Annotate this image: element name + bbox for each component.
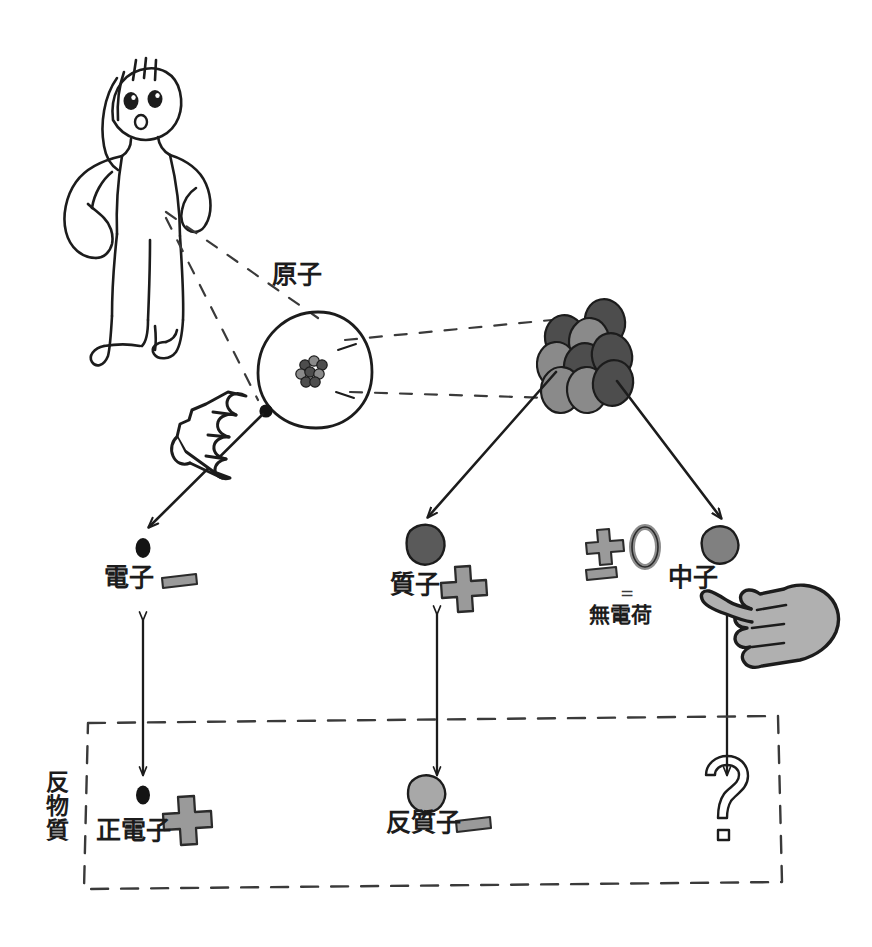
- pointing-hand-outline-icon[interactable]: [172, 392, 246, 479]
- arrow-to-neutron: [617, 381, 721, 518]
- label-atom: 原子: [272, 262, 322, 287]
- label-neutron: 中子: [668, 565, 718, 590]
- charge-note-minus-sign: [586, 567, 617, 580]
- matter-antimatter-arrows: [143, 614, 727, 775]
- particle-neutron: [702, 526, 739, 563]
- charge-note-zero: [632, 527, 658, 567]
- label-antiproton: 反質子: [386, 810, 461, 835]
- charge-note-plus-sign: [586, 529, 624, 565]
- pointing-hand-filled-icon[interactable]: [701, 585, 838, 667]
- particle-positron: [136, 786, 150, 805]
- label-positron: 正電子: [96, 818, 171, 843]
- atom-circle-icon: [258, 312, 372, 428]
- diagram-canvas: [0, 0, 872, 947]
- atom-antimatter-diagram: 原子 電子 質子 中子 = 無電荷 反物質 正電子 反質子: [0, 0, 872, 947]
- particle-electron: [136, 538, 151, 558]
- person-figure-icon: [64, 58, 210, 365]
- charge-note-equals: =: [620, 583, 634, 603]
- magnify-dashes: [345, 320, 552, 398]
- arrow-to-proton: [428, 372, 556, 517]
- label-electron: 電子: [104, 565, 154, 590]
- particle-proton: [407, 525, 445, 565]
- minus-sign-antiproton: [456, 817, 491, 832]
- label-antimatter: 反物質: [44, 770, 68, 842]
- label-proton: 質子: [390, 572, 440, 597]
- atom-nucleus-small: [296, 356, 327, 387]
- particle-antiproton: [408, 775, 445, 812]
- minus-sign-electron: [162, 574, 197, 588]
- sightline-dashes: [166, 212, 318, 400]
- enlarged-nucleus: [535, 295, 638, 414]
- plus-sign-proton: [441, 566, 487, 612]
- label-no-charge: 無電荷: [589, 605, 652, 626]
